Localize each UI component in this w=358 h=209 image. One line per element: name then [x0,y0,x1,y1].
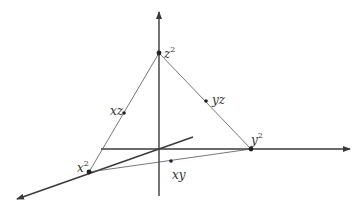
monomial-simplex-diagram: z2 y2 x2 xz yz xy [0,0,358,209]
label-z2: z2 [163,45,175,61]
x-axis [17,137,193,199]
label-y2: y2 [250,131,263,147]
point-z2 [157,51,162,56]
label-xz: xz [110,104,124,118]
label-yz: yz [211,93,226,107]
label-xy: xy [172,168,186,182]
point-yz [204,99,208,103]
point-y2 [249,147,254,152]
point-x2 [87,170,92,175]
point-xy [169,159,173,163]
